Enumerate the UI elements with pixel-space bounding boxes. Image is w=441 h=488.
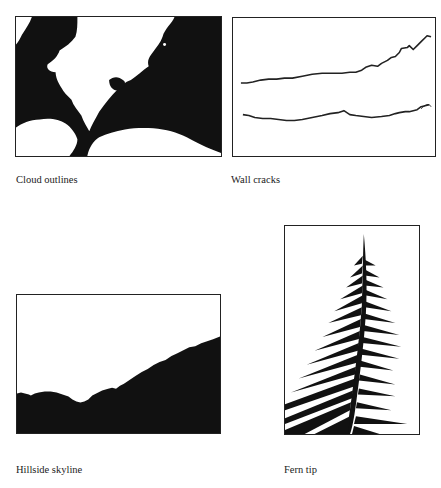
caption-fern-tip: Fern tip [284, 464, 317, 476]
cloud-outlines-figure [15, 16, 222, 157]
cloud-outlines-image [16, 17, 221, 156]
fern-tip-image [285, 226, 419, 434]
caption-wall-cracks: Wall cracks [231, 174, 280, 186]
wall-cracks-image [233, 18, 435, 156]
hillside-skyline-image [17, 295, 220, 433]
wall-cracks-figure [232, 17, 436, 157]
fern-tip-figure [284, 225, 420, 435]
hillside-skyline-figure [16, 294, 221, 434]
caption-cloud-outlines: Cloud outlines [16, 174, 78, 186]
caption-hillside-skyline: Hillside skyline [16, 464, 82, 476]
